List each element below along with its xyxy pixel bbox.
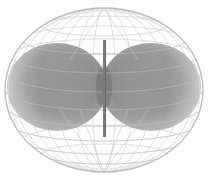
radiation-pattern-figure: Dipole antenna radiation pattern [0,0,208,178]
radiation-pattern-diagram [0,0,208,178]
